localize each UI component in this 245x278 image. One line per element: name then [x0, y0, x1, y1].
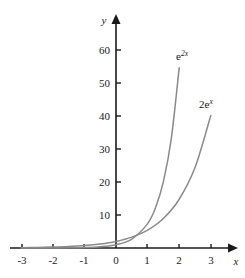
x-tick-label--3: -3 — [17, 254, 27, 266]
x-tick-label-1: 1 — [144, 254, 150, 266]
y-tick-label-60: 60 — [99, 44, 111, 56]
x-axis-arrow-icon — [228, 244, 238, 253]
y-tick-label-10: 10 — [99, 209, 111, 221]
x-tick-label--1: -1 — [79, 254, 88, 266]
y-axis-label: y — [101, 14, 107, 26]
x-axis-label: x — [233, 255, 239, 267]
y-axis-arrow-icon — [112, 14, 121, 24]
y-tick-label-50: 50 — [99, 77, 111, 89]
chart-canvas: -3 -2 -1 0 1 2 3 10 20 30 40 50 60 y x e… — [0, 0, 245, 278]
x-tick-label-3: 3 — [208, 254, 214, 266]
curve-label-2e-x: 2ex — [199, 97, 213, 110]
x-tick-label--2: -2 — [48, 254, 57, 266]
x-tick-label-2: 2 — [176, 254, 182, 266]
y-tick-label-40: 40 — [99, 110, 111, 122]
y-tick-label-20: 20 — [99, 176, 111, 188]
exponential-curves-figure: -3 -2 -1 0 1 2 3 10 20 30 40 50 60 y x e… — [0, 0, 245, 278]
curve-label-e-2x: e2x — [176, 49, 189, 62]
y-tick-label-30: 30 — [99, 143, 111, 155]
x-tick-label-0: 0 — [113, 254, 119, 266]
